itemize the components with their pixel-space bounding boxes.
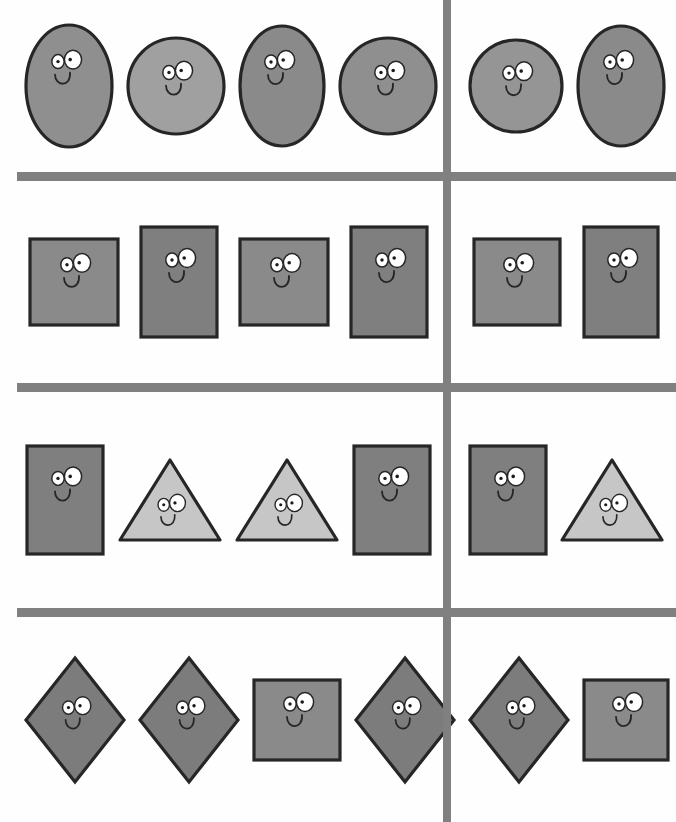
eye-right	[625, 692, 642, 711]
shape-cell-r1-left-3[interactable]	[232, 18, 332, 154]
shape-cell-r2-left-1[interactable]	[22, 231, 126, 333]
shape-cell-r3-left-1[interactable]	[19, 438, 111, 562]
shape-diamond[interactable]	[132, 650, 246, 790]
shape-cell-r1-left-1[interactable]	[18, 17, 120, 155]
pupil-left	[617, 702, 620, 705]
pupil-left	[608, 60, 611, 63]
shape-square[interactable]	[232, 231, 336, 333]
shape-triangle[interactable]	[554, 452, 670, 548]
pupil-right	[68, 58, 72, 62]
shape-cell-r3-right-1[interactable]	[462, 438, 554, 562]
pupil-right	[620, 58, 624, 62]
eye-right	[515, 62, 532, 81]
shape-diamond[interactable]	[18, 650, 132, 790]
shape-square[interactable]	[466, 231, 568, 333]
shape-cell-r2-left-3[interactable]	[232, 231, 336, 333]
shape-diamond[interactable]	[462, 650, 576, 790]
pupil-left	[604, 503, 607, 506]
shape-circle[interactable]	[332, 30, 444, 142]
row-squares-right-group	[462, 181, 670, 383]
pupil-left	[499, 477, 502, 480]
puzzle-canvas	[0, 0, 676, 822]
shape-body-oval-tall	[240, 26, 324, 146]
pupil-left	[612, 258, 615, 261]
shape-triangle[interactable]	[112, 452, 228, 548]
shape-cell-r1-right-1[interactable]	[462, 32, 570, 140]
eye-right	[519, 696, 535, 714]
shape-cell-r4-right-2[interactable]	[576, 672, 676, 768]
shape-cell-r3-right-2[interactable]	[554, 452, 670, 548]
shape-cell-r3-left-2[interactable]	[112, 452, 228, 548]
row-ovals-left-group	[18, 0, 438, 172]
row-diamonds-right-group	[462, 617, 670, 822]
pupil-right	[77, 261, 81, 265]
row-ovals-right-group	[462, 0, 670, 172]
pupil-left	[379, 71, 382, 74]
pupil-left	[269, 60, 272, 63]
row-triangles	[0, 392, 676, 608]
pupil-left	[511, 705, 514, 708]
shape-cell-r2-right-1[interactable]	[466, 231, 568, 333]
shape-circle[interactable]	[120, 30, 232, 142]
shape-oval-tall[interactable]	[18, 17, 120, 155]
shape-cell-r1-left-2[interactable]	[120, 30, 232, 142]
pupil-left	[67, 705, 70, 708]
shape-rectangle-tall[interactable]	[576, 219, 666, 345]
eye-right	[612, 494, 628, 511]
shape-cell-r4-right-1[interactable]	[462, 650, 576, 790]
shape-cell-r1-left-4[interactable]	[332, 30, 444, 142]
shape-cell-r4-left-2[interactable]	[132, 650, 246, 790]
pupil-right	[511, 475, 515, 479]
shape-circle[interactable]	[462, 32, 570, 140]
shape-body-circle	[470, 40, 562, 132]
row-ovals	[0, 0, 676, 172]
pupil-right	[624, 256, 628, 260]
shape-oval-tall[interactable]	[570, 18, 672, 154]
shape-rectangle-tall[interactable]	[19, 438, 111, 562]
eye-right	[64, 467, 81, 486]
eye-right	[507, 467, 524, 486]
row-diamonds-left-group	[18, 617, 438, 822]
pupil-right	[179, 69, 183, 73]
eye-right	[516, 253, 533, 272]
shape-cell-r2-left-2[interactable]	[133, 219, 225, 345]
pupil-left	[383, 477, 386, 480]
shape-square[interactable]	[22, 231, 126, 333]
horizontal-divider-1	[17, 172, 676, 181]
shape-rectangle-tall[interactable]	[133, 219, 225, 345]
pupil-right	[391, 69, 395, 73]
shape-cell-r2-right-2[interactable]	[576, 219, 666, 345]
shape-cell-r2-left-4[interactable]	[343, 219, 435, 345]
shape-body-oval-tall	[26, 25, 112, 147]
shape-cell-r3-left-4[interactable]	[346, 438, 438, 562]
eye-right	[387, 61, 404, 80]
pupil-left	[279, 503, 282, 506]
shape-square[interactable]	[576, 672, 676, 768]
shape-square[interactable]	[246, 672, 348, 768]
pupil-right	[182, 256, 186, 260]
shape-rectangle-tall[interactable]	[346, 438, 438, 562]
eye-right	[175, 61, 192, 80]
eye-right	[169, 494, 185, 511]
eye-right	[616, 51, 633, 70]
pupil-left	[56, 477, 59, 480]
pupil-left	[380, 258, 383, 261]
pupil-right	[300, 700, 304, 704]
horizontal-divider-2	[17, 383, 676, 392]
row-triangles-right-group	[462, 392, 670, 608]
row-squares-left-group	[18, 181, 438, 383]
shape-cell-r4-left-1[interactable]	[18, 650, 132, 790]
shape-body-square	[30, 239, 118, 325]
shape-rectangle-tall[interactable]	[343, 219, 435, 345]
pupil-right	[287, 261, 291, 265]
shape-rectangle-tall[interactable]	[462, 438, 554, 562]
shape-oval-tall[interactable]	[232, 18, 332, 154]
pupil-left	[167, 71, 170, 74]
pupil-right	[520, 261, 524, 265]
eye-right	[73, 253, 90, 272]
shape-cell-r4-left-3[interactable]	[246, 672, 348, 768]
shape-triangle[interactable]	[229, 452, 345, 548]
pupil-right	[192, 703, 195, 706]
shape-cell-r3-left-3[interactable]	[229, 452, 345, 548]
shape-cell-r1-right-2[interactable]	[570, 18, 672, 154]
